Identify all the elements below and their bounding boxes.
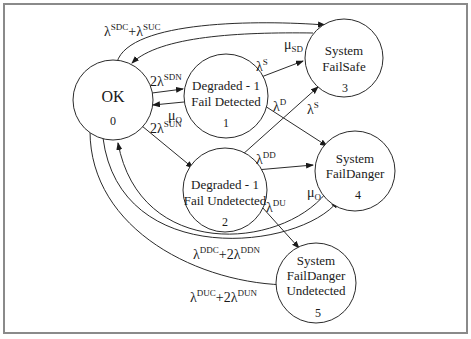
edge-0-to-1: [152, 89, 183, 93]
state-0-label: OK: [101, 88, 125, 105]
state-4-line-2: FailDanger: [326, 166, 385, 181]
state-3-line-2: FailSafe: [322, 59, 366, 74]
state-4-line-1: System: [336, 151, 374, 166]
state-4: System FailDanger 4: [315, 131, 395, 211]
state-2-number: 2: [222, 215, 228, 229]
label-2-to-5: λDU: [266, 198, 286, 215]
state-5: System FailDanger Undetected 5: [276, 243, 356, 323]
state-5-line-2: FailDanger: [287, 268, 346, 283]
label-1-to-4: λD: [273, 97, 287, 114]
label-0-to-5: λDUC+2λDUN: [190, 288, 257, 305]
label-2-to-4: λDD: [256, 150, 276, 167]
state-2-line-1: Degraded - 1: [191, 177, 259, 192]
label-0-to-3: λSDC+λSUC: [104, 22, 161, 39]
label-0-to-1: 2λSDN: [150, 72, 182, 89]
state-4-number: 4: [355, 188, 361, 202]
state-1-number: 1: [223, 116, 229, 130]
state-3: System FailSafe 3: [305, 19, 383, 97]
state-3-line-1: System: [325, 43, 363, 58]
state-0-number: 0: [110, 114, 116, 128]
state-5-line-1: System: [297, 253, 335, 268]
label-3-to-0: μSD: [284, 37, 304, 54]
label-2-to-3: λS: [307, 100, 319, 117]
label-1-to-3: λS: [256, 57, 268, 74]
state-2: Degraded - 1 Fail Undetected 2: [183, 148, 267, 232]
state-1-line-2: Fail Detected: [191, 94, 261, 109]
state-2-line-2: Fail Undetected: [184, 193, 267, 208]
edge-1-to-0: [153, 102, 184, 105]
label-0-to-2: 2λSUN: [150, 119, 182, 136]
state-1-line-1: Degraded - 1: [192, 78, 260, 93]
edge-2-to-4: [256, 165, 313, 170]
state-5-line-3: Undetected: [286, 283, 346, 298]
state-transition-diagram: OK 0 Degraded - 1 Fail Detected 1 Degrad…: [0, 0, 471, 339]
state-3-number: 3: [342, 81, 348, 95]
state-0: OK 0: [73, 60, 153, 140]
label-0-to-4: λDDC+2λDDN: [193, 245, 260, 262]
state-5-number: 5: [315, 306, 321, 320]
